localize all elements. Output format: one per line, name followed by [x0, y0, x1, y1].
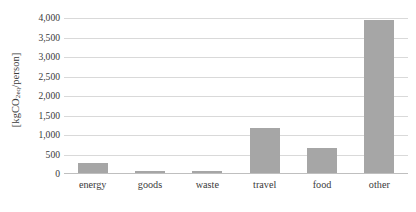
x-axis-tick-labels: energygoodswastetravelfoodother: [64, 178, 408, 198]
y-axis-tick-label: 0: [24, 169, 60, 179]
bar-food[interactable]: [307, 148, 337, 174]
y-axis-title-subscript: 2eq: [14, 88, 22, 98]
y-axis-title-prefix: [kgCO: [10, 98, 21, 127]
bar-chart: [kgCO2eq/person] 05001,0001,5002,0002,50…: [0, 0, 416, 212]
bar-travel[interactable]: [250, 128, 280, 174]
plot-area: [64, 18, 408, 174]
y-axis-tick-label: 500: [24, 150, 60, 160]
y-axis-tick-label: 4,000: [24, 13, 60, 23]
y-axis-tick-label: 2,000: [24, 91, 60, 101]
x-axis-line: [64, 173, 408, 174]
y-axis-tick-label: 1,000: [24, 130, 60, 140]
y-axis-tick-label: 2,500: [24, 72, 60, 82]
y-axis-title-suffix: /person]: [10, 53, 21, 88]
x-axis-tick-label-other: other: [344, 178, 414, 191]
bars-group: [64, 18, 408, 174]
y-axis-title-text: [kgCO2eq/person]: [10, 53, 22, 128]
y-axis-tick-label: 1,500: [24, 111, 60, 121]
y-axis-tick-labels: 05001,0001,5002,0002,5003,0003,5004,000: [24, 0, 60, 212]
y-axis-tick-label: 3,500: [24, 33, 60, 43]
y-axis-tick-label: 3,000: [24, 52, 60, 62]
bar-other[interactable]: [364, 20, 394, 174]
